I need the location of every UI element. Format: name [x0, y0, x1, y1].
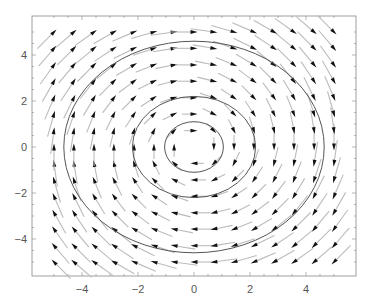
y-tick-label: 4	[21, 49, 27, 61]
field-arrow	[111, 244, 133, 259]
field-arrow	[251, 218, 272, 231]
field-arrow	[210, 242, 235, 247]
field-arrow	[191, 178, 207, 182]
field-arrow	[197, 77, 217, 82]
field-arrow	[231, 222, 253, 231]
field-arrow	[94, 46, 116, 61]
field-arrow	[175, 63, 197, 67]
field-arrow	[116, 63, 137, 76]
field-arrow	[152, 160, 159, 174]
field-arrow	[77, 62, 96, 81]
field-arrow	[232, 23, 257, 34]
field-arrow	[97, 63, 117, 79]
field-arrow	[151, 211, 170, 220]
field-arrow	[132, 177, 143, 193]
field-arrow	[252, 167, 263, 183]
field-arrow	[83, 95, 96, 116]
field-arrow	[191, 211, 211, 215]
field-arrow	[275, 18, 297, 34]
field-arrow	[151, 228, 173, 237]
field-arrow	[266, 98, 275, 117]
field-arrow	[119, 79, 137, 92]
field-arrow	[171, 212, 191, 217]
field-arrow	[132, 194, 147, 209]
field-arrow	[236, 54, 257, 67]
field-arrow	[251, 184, 266, 199]
x-axis-tick-labels: −4−2024	[76, 283, 309, 295]
field-arrow	[111, 210, 128, 227]
x-tick-label: 4	[303, 283, 309, 295]
field-arrow	[106, 111, 115, 130]
field-arrow	[39, 46, 57, 66]
field-arrow	[283, 80, 296, 101]
field-arrow	[232, 152, 239, 166]
field-arrow	[163, 113, 177, 120]
field-arrow	[160, 97, 177, 103]
field-arrow	[131, 211, 149, 224]
field-arrow	[260, 67, 277, 84]
vector-field-plot: −4−2024 −4−2024	[0, 0, 372, 303]
field-arrow	[218, 73, 237, 82]
field-arrow	[172, 144, 176, 157]
field-arrow	[251, 253, 276, 264]
field-arrow	[173, 46, 198, 50]
field-arrow	[91, 243, 112, 260]
field-arrow	[158, 80, 178, 85]
contour-outer	[64, 41, 324, 253]
field-arrow	[271, 233, 293, 248]
field-arrow	[167, 128, 177, 138]
field-arrow	[231, 187, 247, 198]
field-arrow	[233, 38, 257, 50]
x-tick-label: 2	[247, 283, 253, 295]
field-arrow	[151, 194, 167, 205]
field-arrow	[271, 250, 294, 263]
field-arrow	[221, 89, 237, 100]
field-arrow	[276, 33, 297, 50]
field-arrow	[270, 114, 275, 134]
field-arrow	[211, 156, 221, 166]
vector-field-arrows	[37, 15, 350, 278]
field-arrow	[251, 201, 269, 214]
field-arrow	[273, 147, 278, 167]
field-arrow	[245, 101, 256, 117]
field-arrow	[292, 196, 308, 216]
field-arrow	[203, 109, 217, 116]
field-arrow	[131, 227, 152, 240]
field-arrow	[152, 144, 156, 160]
field-arrow	[122, 95, 137, 110]
y-tick-label: −4	[14, 233, 27, 245]
field-arrow	[191, 161, 204, 165]
field-arrow	[296, 17, 316, 35]
field-arrow	[57, 46, 76, 65]
field-arrow	[193, 45, 218, 50]
field-arrow	[239, 70, 257, 83]
field-arrow	[216, 58, 238, 67]
field-arrow	[271, 215, 291, 231]
field-arrow	[184, 129, 197, 133]
field-arrow	[195, 61, 217, 66]
field-arrow	[112, 193, 125, 211]
field-arrow	[171, 178, 185, 185]
field-arrow	[332, 228, 350, 248]
field-arrow	[91, 260, 113, 276]
field-arrow	[210, 209, 230, 214]
field-arrow	[80, 78, 96, 98]
field-arrow	[112, 144, 116, 164]
field-arrow	[148, 128, 155, 142]
field-arrow	[191, 244, 216, 248]
field-arrow	[255, 35, 277, 50]
field-arrow	[291, 212, 310, 231]
field-arrow	[171, 30, 198, 34]
field-arrow	[232, 170, 244, 182]
field-arrow	[191, 227, 213, 231]
field-arrow	[92, 144, 96, 166]
field-arrow	[99, 79, 116, 96]
field-arrow	[141, 96, 157, 107]
field-arrow	[136, 64, 158, 73]
field-arrow	[254, 20, 277, 33]
field-arrow	[211, 192, 228, 198]
field-arrow	[112, 177, 121, 196]
field-arrow	[144, 112, 156, 124]
contour-lines	[64, 41, 324, 253]
y-tick-label: −2	[14, 187, 27, 199]
